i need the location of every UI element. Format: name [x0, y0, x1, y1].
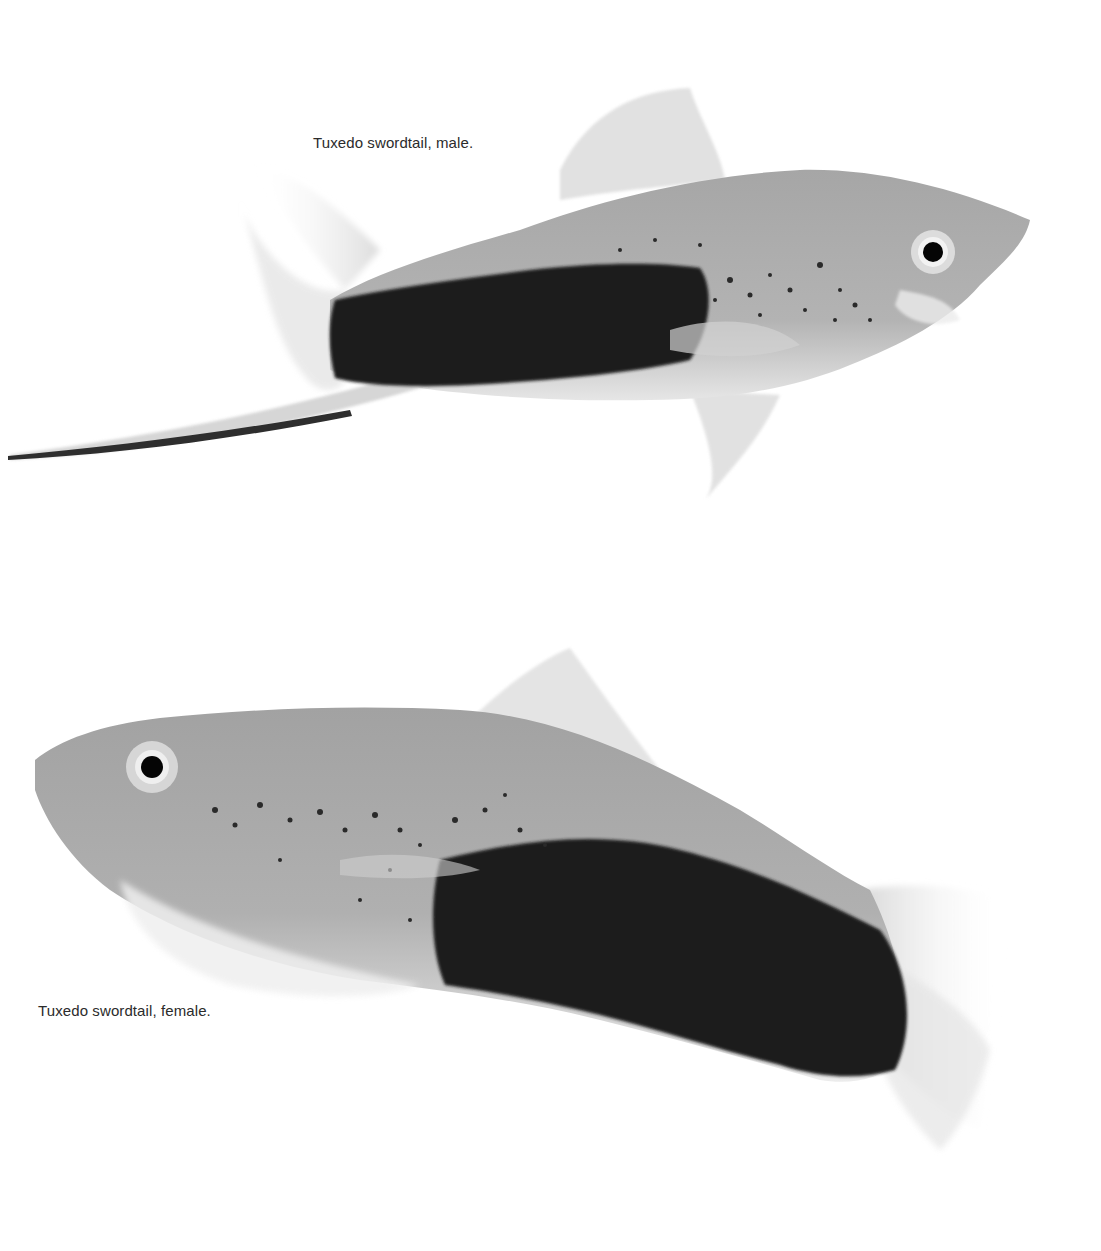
caption-male: Tuxedo swordtail, male.: [313, 134, 473, 151]
caption-female: Tuxedo swordtail, female.: [38, 1002, 211, 1019]
female-fish: [35, 648, 1010, 1150]
photo-figure: Tuxedo swordtail, male. Tuxedo swordtail…: [0, 0, 1101, 1251]
male-eye-pupil: [923, 242, 943, 262]
fish-photo: [0, 0, 1101, 1251]
male-fish: [8, 88, 1030, 500]
female-eye-pupil: [141, 756, 163, 778]
male-anal-fin: [690, 390, 780, 500]
